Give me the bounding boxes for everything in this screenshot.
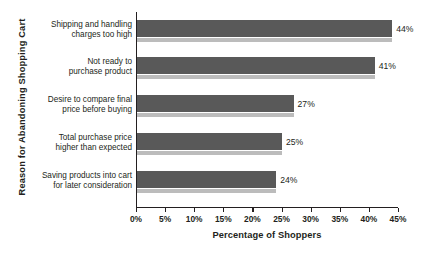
bar-group[interactable]: [137, 171, 276, 195]
x-axis-tick: [282, 208, 283, 212]
category-label-line: price before buying: [62, 105, 132, 114]
category-label-line: Total purchase price: [59, 133, 132, 142]
category-label: Not ready to purchase product: [20, 57, 132, 77]
bar-segment[interactable]: [137, 57, 375, 74]
x-axis-tick-label: 0%: [121, 214, 151, 224]
x-axis-tick-label: 20%: [237, 214, 267, 224]
category-label-line: Shipping and handling: [51, 20, 132, 29]
x-axis-tick: [369, 208, 370, 212]
x-axis-tick: [223, 208, 224, 212]
bar-row: Shipping and handling charges too high 4…: [0, 20, 431, 57]
x-axis-tick-label: 35%: [325, 214, 355, 224]
bar-group[interactable]: [137, 133, 282, 157]
bar-segment[interactable]: [137, 133, 282, 150]
category-label-line: charges too high: [71, 30, 132, 39]
x-axis-tick: [252, 208, 253, 212]
bar-group[interactable]: [137, 20, 392, 44]
category-label-line: higher than expected: [56, 143, 132, 152]
category-label: Desire to compare final price before buy…: [20, 95, 132, 115]
bar-row: Total purchase price higher than expecte…: [0, 133, 431, 170]
category-label-line: Saving products into cart: [42, 171, 132, 180]
category-label-line: Not ready to: [87, 57, 132, 66]
x-axis-tick-label: 40%: [354, 214, 384, 224]
x-axis-tick: [194, 208, 195, 212]
bar-value-label: 41%: [379, 61, 396, 71]
x-axis-tick: [340, 208, 341, 212]
x-axis-tick-label: 30%: [296, 214, 326, 224]
category-label-line: Desire to compare final: [48, 95, 132, 104]
category-label-line: purchase product: [69, 67, 132, 76]
bar-row: Saving products into cart for later cons…: [0, 171, 431, 208]
x-axis-title: Percentage of Shoppers: [136, 230, 398, 240]
bar-group[interactable]: [137, 95, 294, 119]
bar-shadow: [137, 189, 276, 194]
bar-row: Not ready to purchase product 41%: [0, 57, 431, 94]
bar-value-label: 24%: [280, 175, 297, 185]
x-axis-tick-label: 25%: [267, 214, 297, 224]
category-label: Total purchase price higher than expecte…: [20, 133, 132, 153]
bar-segment[interactable]: [137, 171, 276, 188]
category-label: Saving products into cart for later cons…: [20, 171, 132, 191]
bar-shadow: [137, 113, 294, 118]
bar-shadow: [137, 38, 392, 43]
x-axis-tick-label: 10%: [179, 214, 209, 224]
x-axis-tick: [165, 208, 166, 212]
x-axis-tick: [136, 208, 137, 212]
category-label-line: for later consideration: [53, 181, 132, 190]
bar-shadow: [137, 151, 282, 156]
x-axis-tick: [311, 208, 312, 212]
bar-group[interactable]: [137, 57, 375, 81]
bar-value-label: 25%: [286, 137, 303, 147]
category-label: Shipping and handling charges too high: [20, 20, 132, 40]
bar-value-label: 27%: [298, 99, 315, 109]
x-axis-tick-label: 15%: [208, 214, 238, 224]
bar-segment[interactable]: [137, 20, 392, 37]
bar-chart: Reason for Abandoning Shopping Cart Ship…: [0, 0, 431, 259]
x-axis-tick-label: 45%: [383, 214, 413, 224]
x-axis-tick: [398, 208, 399, 212]
bar-value-label: 44%: [396, 24, 413, 34]
x-axis-tick-label: 5%: [150, 214, 180, 224]
bar-segment[interactable]: [137, 95, 294, 112]
bar-shadow: [137, 75, 375, 80]
bar-row: Desire to compare final price before buy…: [0, 95, 431, 132]
